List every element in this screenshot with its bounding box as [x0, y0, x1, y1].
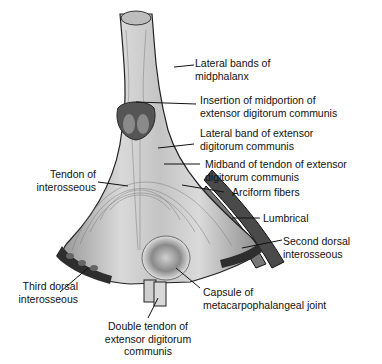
label-lateral-bands-midphalanx: Lateral bands of midphalanx [195, 57, 270, 82]
label-lateral-band-edc: Lateral band of extensor digitorum commu… [200, 127, 313, 152]
label-line: Capsule of [203, 286, 326, 299]
label-line: midphalanx [195, 70, 270, 83]
label-double-tendon-edc: Double tendon of extensor digitorum comm… [96, 320, 200, 358]
label-line: interosseous [36, 181, 96, 194]
label-arciform-fibers: Arciform fibers [232, 186, 300, 199]
label-line: Lateral band of extensor [200, 127, 313, 140]
label-line: Arciform fibers [232, 186, 300, 199]
label-line: interosseous [4, 293, 78, 306]
anatomy-figure: Lateral bands of midphalanx Insertion of… [0, 0, 382, 364]
label-line: Midband of tendon of extensor [205, 158, 347, 171]
label-line: communis [96, 345, 200, 358]
label-line: digitorum communis [205, 171, 347, 184]
label-lumbrical: Lumbrical [263, 212, 309, 225]
label-capsule-mcp-joint: Capsule of metacarpophalangeal joint [203, 286, 326, 311]
label-tendon-interosseous: Tendon of interosseous [36, 168, 96, 193]
label-line: Tendon of [36, 168, 96, 181]
label-line: extensor digitorum [96, 333, 200, 346]
label-line: Lumbrical [263, 212, 309, 225]
label-line: digitorum communis [200, 140, 313, 153]
label-insertion-midportion: Insertion of midportion of extensor digi… [200, 94, 337, 119]
label-second-dorsal-interosseous: Second dorsal interosseous [283, 235, 350, 260]
label-line: Second dorsal [283, 235, 350, 248]
label-line: Double tendon of [96, 320, 200, 333]
label-line: interosseous [283, 248, 350, 261]
label-third-dorsal-interosseous: Third dorsal interosseous [4, 280, 78, 305]
label-line: Lateral bands of [195, 57, 270, 70]
label-line: Third dorsal [4, 280, 78, 293]
label-line: extensor digitorum communis [200, 107, 337, 120]
label-line: metacarpophalangeal joint [203, 299, 326, 312]
label-line: Insertion of midportion of [200, 94, 337, 107]
label-midband-tendon: Midband of tendon of extensor digitorum … [205, 158, 347, 183]
